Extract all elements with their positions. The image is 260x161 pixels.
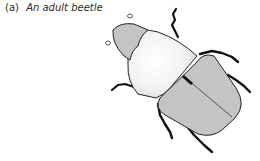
leg-front-right xyxy=(172,9,178,37)
beetle-illustration xyxy=(0,0,260,161)
